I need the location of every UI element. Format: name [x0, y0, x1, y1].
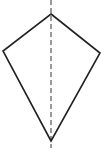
kite-diagram — [0, 0, 111, 152]
